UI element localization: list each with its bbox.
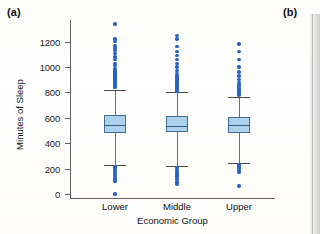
y-tick-mark xyxy=(65,118,70,119)
x-tick-label-middle: Middle xyxy=(147,201,207,212)
outlier-point xyxy=(113,62,116,65)
x-axis-line xyxy=(70,198,275,199)
outlier-point xyxy=(175,58,178,61)
outlier-point xyxy=(237,184,240,187)
whisker-upper xyxy=(239,97,240,117)
outlier-point xyxy=(175,34,178,37)
whisker-lower xyxy=(177,132,178,166)
y-tick-label: 0 xyxy=(26,189,60,200)
outlier-point xyxy=(175,45,178,48)
x-tick-label-lower: Lower xyxy=(85,201,145,212)
outlier-point xyxy=(175,182,178,185)
y-axis-line xyxy=(70,20,71,198)
outlier-point xyxy=(237,58,240,61)
outlier-point xyxy=(237,171,240,174)
whisker-cap-upper xyxy=(228,97,250,98)
y-tick-mark xyxy=(65,92,70,93)
outlier-point xyxy=(237,42,240,45)
outlier-point xyxy=(175,54,178,57)
outlier-point xyxy=(237,65,240,68)
y-tick-label: 1000 xyxy=(26,62,60,73)
outlier-point xyxy=(175,72,178,75)
y-tick-mark xyxy=(65,194,70,195)
outlier-point xyxy=(113,22,116,25)
y-tick-label: 1200 xyxy=(26,36,60,47)
whisker-lower xyxy=(239,133,240,163)
box-iqr xyxy=(166,116,188,132)
adjacent-panel-edge xyxy=(310,14,320,234)
whisker-cap-upper xyxy=(104,90,126,91)
outlier-point xyxy=(113,37,116,40)
y-tick-mark xyxy=(65,169,70,170)
y-tick-mark xyxy=(65,67,70,68)
outlier-point xyxy=(237,70,240,73)
y-tick-mark xyxy=(65,143,70,144)
outlier-point xyxy=(237,50,240,53)
y-tick-label: 200 xyxy=(26,163,60,174)
outlier-point xyxy=(175,50,178,53)
y-tick-label: 800 xyxy=(26,87,60,98)
median-line xyxy=(166,126,188,127)
y-tick-label: 600 xyxy=(26,112,60,123)
outlier-point xyxy=(175,62,178,65)
outlier-point xyxy=(113,192,116,195)
outlier-point xyxy=(237,74,240,77)
whisker-upper xyxy=(115,90,116,115)
y-tick-label: 400 xyxy=(26,138,60,149)
outlier-point xyxy=(175,69,178,72)
figure-panel-a: (a) (b) 020040060080010001200 LowerMiddl… xyxy=(0,0,320,234)
whisker-lower xyxy=(115,133,116,165)
panel-label-b: (b) xyxy=(283,6,297,18)
x-axis-title: Economic Group xyxy=(70,215,275,226)
outlier-point xyxy=(113,67,116,70)
whisker-upper xyxy=(177,92,178,116)
outlier-point xyxy=(113,180,116,183)
outlier-point xyxy=(175,65,178,68)
y-tick-mark xyxy=(65,42,70,43)
median-line xyxy=(228,125,250,126)
boxplot-chart: 020040060080010001200 LowerMiddleUpper M… xyxy=(0,0,285,234)
x-tick-label-upper: Upper xyxy=(209,201,269,212)
outlier-point xyxy=(175,37,178,40)
outlier-point xyxy=(237,81,240,84)
y-axis-title: Minutes of Sleep xyxy=(14,55,25,175)
outlier-point xyxy=(113,44,116,47)
median-line xyxy=(104,125,126,126)
outlier-point xyxy=(113,55,116,58)
